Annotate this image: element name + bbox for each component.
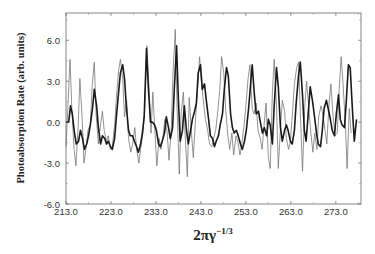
photoabsorption-chart: 213.0223.0233.0243.0253.0263.0273.0 -6.0… <box>0 0 375 254</box>
x-axis-label-main: 2πγ <box>193 227 216 243</box>
y-tick-label: -3.0 <box>44 158 60 169</box>
series-thick-line <box>66 46 357 153</box>
y-tick-label: 3.0 <box>47 76 60 87</box>
y-axis-label: Photoabsorption Rate (arb. units) <box>15 32 27 184</box>
x-tick-label: 273.0 <box>324 206 348 217</box>
x-tick-label: 223.0 <box>99 206 123 217</box>
y-tick-label: 0.0 <box>47 117 60 128</box>
y-tick-label: 6.0 <box>47 35 60 46</box>
x-tick-label: 243.0 <box>189 206 213 217</box>
x-tick-label: 263.0 <box>279 206 303 217</box>
x-axis-label: 2πγ−1/3 <box>193 226 233 243</box>
plot-lines <box>66 29 357 176</box>
x-axis-label-superscript: −1/3 <box>216 226 233 236</box>
y-tick-label: -6.0 <box>44 199 60 210</box>
x-tick-label: 253.0 <box>234 206 258 217</box>
plot-frame <box>66 13 361 204</box>
x-axis-ticks: 213.0223.0233.0243.0253.0263.0273.0 <box>54 13 358 217</box>
x-tick-label: 233.0 <box>144 206 168 217</box>
